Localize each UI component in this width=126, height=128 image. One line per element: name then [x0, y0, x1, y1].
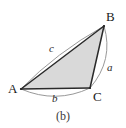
side-label-b: b: [52, 93, 58, 104]
vertex-point-a: [20, 88, 22, 90]
figure-caption: (b): [0, 109, 126, 123]
vertex-label-c: C: [93, 90, 102, 103]
vertex-point-c: [89, 87, 91, 89]
edge-ac: [21, 88, 90, 89]
side-label-c: c: [49, 43, 54, 54]
vertex-label-a: A: [8, 82, 17, 95]
geometry-figure: A B C a b c (b): [0, 0, 126, 128]
vertex-label-b: B: [106, 10, 115, 23]
side-label-a: a: [107, 62, 113, 73]
vertex-point-b: [103, 25, 105, 27]
